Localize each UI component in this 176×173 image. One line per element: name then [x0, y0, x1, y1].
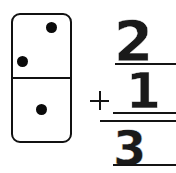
domino-top-pip-count: 2: [0, 0, 1, 1]
equals-rule-upper: [113, 112, 176, 114]
domino-divider: [11, 77, 72, 79]
domino-pip-middle-left: [17, 56, 28, 67]
addend-top: 2: [114, 13, 153, 69]
domino-pip-top-right: [46, 22, 57, 33]
vertical-addition-problem: 2 + 1 3: [88, 0, 176, 173]
plus-operator-label: +: [90, 91, 91, 92]
domino-bottom-pip-count: 1: [0, 0, 1, 1]
plus-operator: +: [90, 91, 109, 110]
domino-addition-worksheet: 2 1 2 + 1 3: [0, 0, 176, 173]
plus-vertical-stroke: [99, 91, 101, 110]
addend-bottom: 1: [126, 66, 161, 116]
rule-under-sum: [113, 164, 176, 166]
domino-pip-bottom-center: [36, 104, 47, 115]
